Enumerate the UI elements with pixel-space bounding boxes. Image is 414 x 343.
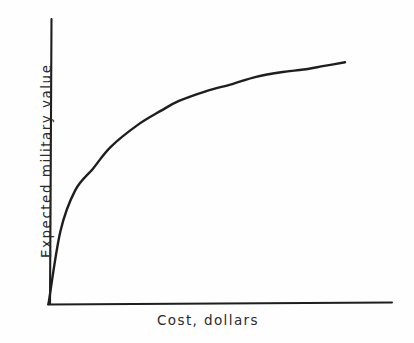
y-axis-label-container: Expected military value [0, 0, 50, 300]
x-axis-line [48, 303, 392, 305]
chart-canvas [0, 0, 414, 343]
y-axis-label: Expected military value [38, 64, 54, 258]
figure-panel: Expected military value Cost, dollars [0, 0, 414, 343]
x-axis-label: Cost, dollars [157, 312, 259, 328]
data-curve [49, 62, 346, 304]
